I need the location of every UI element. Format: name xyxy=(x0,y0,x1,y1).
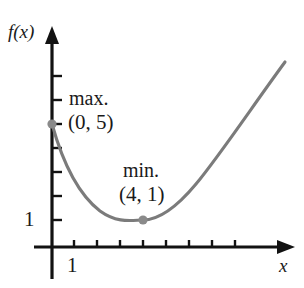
function-curve xyxy=(52,62,285,221)
plot-canvas xyxy=(0,0,304,288)
min-annotation-coords: (4, 1) xyxy=(119,184,165,205)
x-axis-label: x xyxy=(279,256,287,275)
y-axis-label: f(x) xyxy=(8,22,34,41)
max-annotation-coords: (0, 5) xyxy=(68,112,114,133)
function-graph-figure: f(x) x max. (0, 5) min. (4, 1) 1 1 xyxy=(0,0,304,288)
max-point-marker xyxy=(47,119,56,128)
max-annotation-label: max. xyxy=(69,88,108,108)
min-point-marker xyxy=(138,215,147,224)
x-axis-arrowhead xyxy=(277,240,295,254)
y-axis-tick-label-1: 1 xyxy=(24,209,35,230)
min-annotation-label: min. xyxy=(123,160,159,180)
y-axis-arrowhead xyxy=(45,26,59,44)
x-axis-tick-label-1: 1 xyxy=(67,255,78,276)
